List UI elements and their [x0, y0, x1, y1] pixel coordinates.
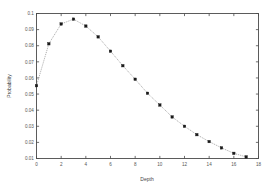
data-point-marker — [48, 43, 51, 46]
x-axis-label: Depth — [140, 176, 154, 182]
data-point-marker — [233, 152, 236, 155]
y-tick-label: 0.01 — [25, 156, 34, 161]
y-tick-label: 0.09 — [25, 27, 34, 32]
data-point-marker — [134, 78, 137, 81]
x-tick-label: 14 — [207, 162, 213, 167]
x-tick-label: 0 — [35, 162, 38, 167]
x-tick-label: 10 — [157, 162, 163, 167]
x-tick-label: 6 — [109, 162, 112, 167]
y-tick-label: 0.07 — [25, 60, 34, 65]
y-tick-label: 0.1 — [28, 11, 35, 16]
x-tick-label: 2 — [60, 162, 63, 167]
x-tick-label: 18 — [256, 162, 262, 167]
data-point-marker — [60, 23, 63, 26]
data-point-marker — [183, 125, 186, 128]
x-tick-label: 16 — [231, 162, 237, 167]
y-tick-label: 0.05 — [25, 92, 34, 97]
data-point-marker — [220, 147, 223, 150]
data-point-marker — [146, 92, 149, 95]
y-tick-label: 0.03 — [25, 124, 34, 129]
data-point-marker — [171, 116, 174, 119]
data-point-marker — [245, 156, 248, 159]
x-tick-label: 12 — [182, 162, 188, 167]
y-tick-label: 0.06 — [25, 76, 34, 81]
chart-figure: 024681012141618 0.010.020.030.040.050.06… — [0, 0, 275, 187]
data-point-marker — [85, 25, 88, 28]
data-point-marker — [208, 140, 211, 143]
y-axis-label: Probability — [6, 74, 12, 98]
y-tick-label: 0.08 — [25, 43, 34, 48]
data-point-marker — [109, 50, 112, 53]
data-point-marker — [72, 18, 75, 21]
x-tick-label: 8 — [134, 162, 137, 167]
data-point-marker — [122, 64, 125, 67]
data-point-marker — [159, 104, 162, 107]
data-point-marker — [35, 84, 38, 87]
x-tick-label: 4 — [85, 162, 88, 167]
probability-depth-line-chart: 024681012141618 0.010.020.030.040.050.06… — [0, 0, 275, 187]
y-tick-label: 0.02 — [25, 140, 34, 145]
data-point-marker — [97, 36, 100, 39]
data-point-marker — [196, 133, 199, 136]
y-tick-label: 0.04 — [25, 108, 34, 113]
